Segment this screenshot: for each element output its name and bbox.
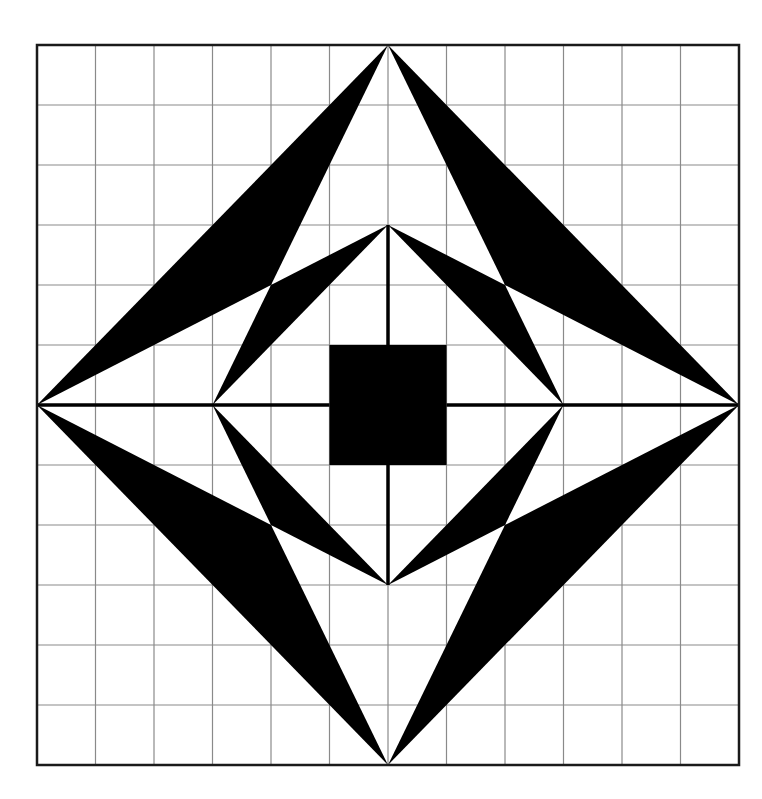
geometric-grid-figure [0,0,762,799]
center-square [330,345,447,465]
